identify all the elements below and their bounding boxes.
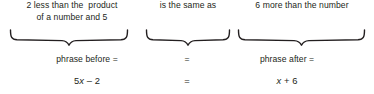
phrase-left-line1: 2 less than the product <box>2 0 142 12</box>
underbrace-left-icon <box>11 30 128 45</box>
phrase-middle: is the same as <box>142 0 234 12</box>
phrase-right-line1: 6 more than the number <box>232 0 372 12</box>
label-phrase-after: phrase after = <box>202 52 372 66</box>
label-row: phrase before = = phrase after = <box>0 52 374 70</box>
braces-group <box>0 28 374 52</box>
phrase-row: 2 less than the product of a number and … <box>0 0 374 28</box>
expression-right: x + 6 <box>202 74 372 88</box>
expression-left-remainder: – 2 <box>84 75 100 86</box>
underbrace-middle-icon <box>147 30 230 45</box>
brace-row <box>0 28 374 52</box>
expression-row: 5x – 2 = x + 6 <box>0 74 374 92</box>
phrase-middle-line1: is the same as <box>142 0 234 12</box>
equation-translation-diagram: 2 less than the product of a number and … <box>0 0 374 94</box>
label-phrase-before: phrase before = <box>2 52 172 66</box>
phrase-left-line2: of a number and 5 <box>2 12 142 24</box>
expression-right-remainder: + 6 <box>281 75 297 86</box>
underbrace-right-icon <box>239 30 365 45</box>
label-equals-top: = <box>172 52 202 66</box>
expression-equals: = <box>172 74 202 88</box>
phrase-left: 2 less than the product of a number and … <box>2 0 142 23</box>
expression-left: 5x – 2 <box>2 74 172 88</box>
phrase-right: 6 more than the number <box>232 0 372 12</box>
